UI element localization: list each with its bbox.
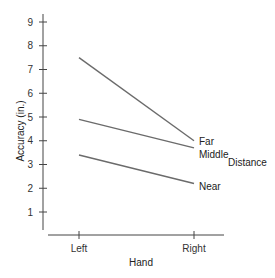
series-label-far: Far (199, 136, 215, 147)
y-tick-label: 2 (27, 183, 33, 194)
series-line-middle (79, 119, 194, 148)
line-chart: 123456789 LeftRight FarMiddleNear Accura… (0, 0, 275, 278)
y-tick-label: 8 (27, 40, 33, 51)
x-tick-label: Right (182, 243, 206, 254)
series-line-far (79, 58, 194, 141)
series-lines: FarMiddleNear (79, 58, 229, 192)
y-tick-label: 7 (27, 64, 33, 75)
series-label-near: Near (199, 181, 221, 192)
x-axis: LeftRight (48, 231, 224, 254)
y-tick-label: 5 (27, 112, 33, 123)
legend-title: Distance (228, 157, 267, 168)
series-line-near (79, 155, 194, 184)
x-tick-label: Left (71, 243, 88, 254)
y-tick-label: 1 (27, 207, 33, 218)
y-axis-title: Accuracy (in.) (15, 100, 26, 161)
y-tick-label: 3 (27, 159, 33, 170)
y-tick-label: 9 (27, 17, 33, 28)
series-label-middle: Middle (199, 149, 229, 160)
y-tick-label: 6 (27, 88, 33, 99)
y-axis: 123456789 (27, 14, 47, 230)
x-axis-title: Hand (129, 257, 153, 268)
y-tick-label: 4 (27, 135, 33, 146)
